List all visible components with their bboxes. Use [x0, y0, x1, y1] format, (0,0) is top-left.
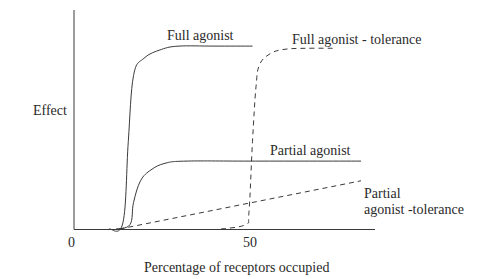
- series-full-agonist: [109, 46, 253, 231]
- series-partial-agonist-tolerance: [120, 181, 362, 229]
- series-partial-agonist: [116, 161, 361, 229]
- series-layer: [109, 46, 361, 231]
- label-full-agonist: Full agonist: [167, 28, 234, 44]
- label-partial-agonist-tolerance-line1: Partial: [364, 186, 401, 202]
- series-full-agonist-tolerance: [221, 48, 337, 229]
- label-partial-agonist-tolerance-line2: agonist -tolerance: [364, 202, 464, 218]
- x-axis-label: Percentage of receptors occupied: [144, 260, 329, 276]
- label-partial-agonist: Partial agonist: [270, 143, 351, 159]
- y-axis-label: Effect: [33, 103, 67, 119]
- label-full-agonist-tolerance: Full agonist - tolerance: [292, 32, 421, 48]
- x-tick-50: 50: [243, 235, 257, 251]
- x-tick-0: 0: [68, 235, 75, 251]
